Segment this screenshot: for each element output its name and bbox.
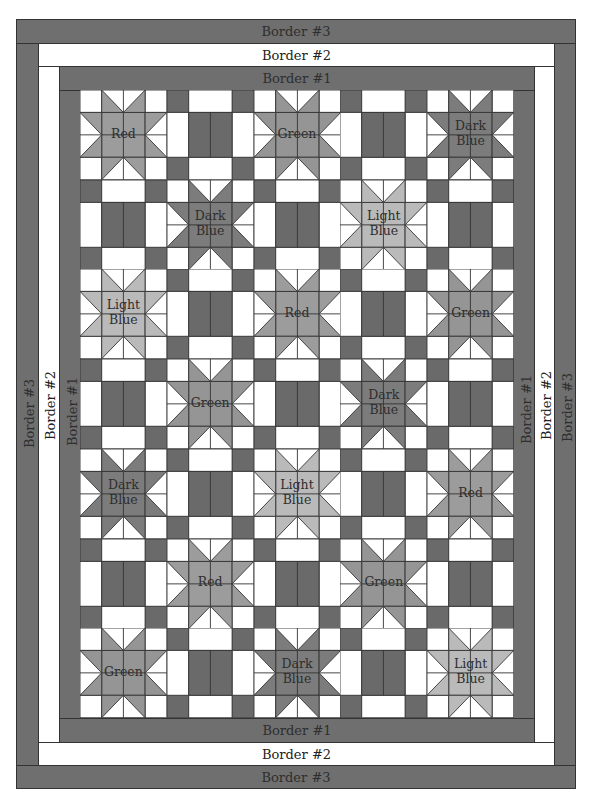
border3-right-label: Border #3 bbox=[560, 373, 575, 442]
border1-left-label: Border #1 bbox=[65, 377, 80, 446]
border3-bottom-label: Border #3 bbox=[261, 770, 330, 785]
star-block: Green bbox=[80, 628, 167, 718]
rail-block-shape bbox=[80, 180, 167, 270]
star-block-shape bbox=[254, 269, 341, 359]
border1-right-label: Border #1 bbox=[519, 375, 534, 444]
rail-block bbox=[340, 269, 427, 359]
star-block: Red bbox=[254, 269, 341, 359]
border3-left-label: Border #3 bbox=[22, 379, 37, 448]
star-block: Red bbox=[427, 449, 514, 539]
star-block: Red bbox=[167, 539, 254, 629]
star-block: Green bbox=[340, 539, 427, 629]
rail-block bbox=[427, 359, 514, 449]
star-block-shape bbox=[80, 628, 167, 718]
star-block: DarkBlue bbox=[340, 359, 427, 449]
rail-block-shape bbox=[167, 90, 254, 180]
rail-block-shape bbox=[167, 269, 254, 359]
star-block: Green bbox=[427, 269, 514, 359]
star-block: DarkBlue bbox=[80, 449, 167, 539]
border1-bottom: Border #1 bbox=[59, 718, 535, 743]
border1-top-label: Border #1 bbox=[262, 71, 331, 86]
rail-block-shape bbox=[427, 539, 514, 629]
rail-block bbox=[167, 90, 254, 180]
border1-top: Border #1 bbox=[59, 66, 535, 91]
star-block: LightBlue bbox=[427, 628, 514, 718]
star-block-shape bbox=[427, 90, 514, 180]
star-block-shape bbox=[427, 269, 514, 359]
rail-block bbox=[80, 539, 167, 629]
star-block: LightBlue bbox=[254, 449, 341, 539]
star-block-shape bbox=[254, 628, 341, 718]
rail-block-shape bbox=[167, 449, 254, 539]
star-block: Green bbox=[254, 90, 341, 180]
rail-block-shape bbox=[340, 90, 427, 180]
quilt-block-grid: RedGreenDarkBlueDarkBlueLightBlueLightBl… bbox=[80, 90, 514, 718]
border2-right-label: Border #2 bbox=[539, 371, 554, 440]
rail-block bbox=[167, 628, 254, 718]
star-block: DarkBlue bbox=[167, 180, 254, 270]
star-block: Green bbox=[167, 359, 254, 449]
border2-left-label: Border #2 bbox=[43, 371, 58, 440]
rail-block bbox=[340, 449, 427, 539]
rail-block-shape bbox=[340, 449, 427, 539]
rail-block bbox=[254, 359, 341, 449]
star-block: DarkBlue bbox=[254, 628, 341, 718]
star-block-shape bbox=[427, 449, 514, 539]
rail-block bbox=[427, 180, 514, 270]
rail-block bbox=[80, 180, 167, 270]
rail-block-shape bbox=[254, 180, 341, 270]
rail-block-shape bbox=[340, 269, 427, 359]
border2-bottom-label: Border #2 bbox=[262, 747, 331, 762]
border2-top-label: Border #2 bbox=[262, 48, 331, 63]
border3-bottom: Border #3 bbox=[16, 765, 576, 789]
rail-block bbox=[80, 359, 167, 449]
border3-top-label: Border #3 bbox=[261, 24, 330, 39]
star-block-shape bbox=[80, 90, 167, 180]
rail-block bbox=[340, 628, 427, 718]
rail-block-shape bbox=[427, 180, 514, 270]
rail-block bbox=[254, 539, 341, 629]
border1-bottom-label: Border #1 bbox=[262, 723, 331, 738]
star-block: DarkBlue bbox=[427, 90, 514, 180]
caption-clipped bbox=[0, 797, 591, 805]
rail-block-shape bbox=[254, 359, 341, 449]
border3-top: Border #3 bbox=[16, 19, 576, 44]
star-block: LightBlue bbox=[80, 269, 167, 359]
star-block-shape bbox=[167, 180, 254, 270]
rail-block-shape bbox=[80, 539, 167, 629]
rail-block bbox=[427, 539, 514, 629]
star-block-shape bbox=[80, 449, 167, 539]
star-block-shape bbox=[340, 539, 427, 629]
star-block-shape bbox=[167, 359, 254, 449]
rail-block-shape bbox=[340, 628, 427, 718]
star-block-shape bbox=[254, 449, 341, 539]
star-block-shape bbox=[427, 628, 514, 718]
border2-top: Border #2 bbox=[38, 43, 555, 67]
star-block-shape bbox=[340, 359, 427, 449]
rail-block-shape bbox=[80, 359, 167, 449]
rail-block bbox=[254, 180, 341, 270]
rail-block-shape bbox=[427, 359, 514, 449]
star-block-shape bbox=[167, 539, 254, 629]
star-block: Red bbox=[80, 90, 167, 180]
star-block-shape bbox=[254, 90, 341, 180]
star-block: LightBlue bbox=[340, 180, 427, 270]
rail-block bbox=[340, 90, 427, 180]
rail-block-shape bbox=[167, 628, 254, 718]
star-block-shape bbox=[340, 180, 427, 270]
star-block-shape bbox=[80, 269, 167, 359]
rail-block bbox=[167, 449, 254, 539]
rail-block-shape bbox=[254, 539, 341, 629]
rail-block bbox=[167, 269, 254, 359]
border2-bottom: Border #2 bbox=[38, 742, 555, 766]
